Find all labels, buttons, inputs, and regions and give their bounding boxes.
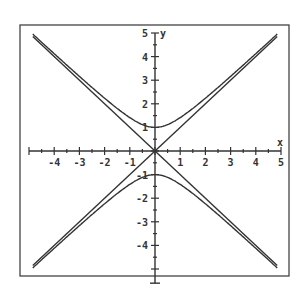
x-tick-label: 2 bbox=[202, 157, 208, 168]
y-tick-label: 1 bbox=[142, 122, 148, 133]
x-tick-label: -4 bbox=[48, 157, 60, 168]
y-axis-label: y bbox=[160, 28, 166, 39]
y-tick-label: -2 bbox=[136, 193, 148, 204]
y-tick-label: -1 bbox=[136, 170, 148, 181]
x-tick-label: -3 bbox=[73, 157, 85, 168]
x-tick-label: -1 bbox=[124, 157, 136, 168]
y-tick-label: -3 bbox=[136, 217, 148, 228]
y-tick-label: 2 bbox=[142, 99, 148, 110]
x-tick-label: 1 bbox=[177, 157, 183, 168]
x-tick-label: 5 bbox=[278, 157, 284, 168]
x-tick-label: 3 bbox=[228, 157, 234, 168]
x-axis-label: x bbox=[277, 137, 283, 148]
x-tick-label: 4 bbox=[253, 157, 259, 168]
y-tick-label: 3 bbox=[142, 75, 148, 86]
y-tick-label: -4 bbox=[136, 240, 148, 251]
hyperbola-plot: -4-3-2-11234554321-1-2-3-4 x y bbox=[0, 0, 301, 290]
axes bbox=[29, 33, 281, 283]
x-tick-label: -2 bbox=[99, 157, 111, 168]
y-tick-label: 5 bbox=[142, 28, 148, 39]
y-tick-label: 4 bbox=[142, 52, 148, 63]
